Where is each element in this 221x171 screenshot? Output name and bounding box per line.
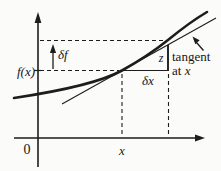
tangent-label-line1: tangent — [172, 49, 211, 64]
f-of-x-label: f(x) — [17, 64, 35, 79]
delta-f-label: δf — [58, 47, 70, 62]
delta-x-label: δx — [142, 73, 154, 88]
diagram-canvas: f(x) δf z δx tangent at x 0 x — [0, 0, 221, 171]
x-axis-arrowhead-icon — [195, 135, 205, 142]
tangent-label-line2: at x — [172, 63, 191, 78]
y-axis-arrowhead-icon — [35, 12, 42, 23]
x-value-label: x — [118, 143, 125, 158]
delta-f-arrowhead-icon — [50, 44, 56, 53]
z-label: z — [158, 51, 164, 65]
tangent-label-at-word: at — [172, 63, 185, 78]
origin-label: 0 — [24, 142, 31, 157]
tangent-pointer-arrowhead-icon — [193, 37, 200, 45]
math-diagram: f(x) δf z δx tangent at x 0 x — [0, 0, 221, 171]
tangent-label-at-var: x — [184, 63, 191, 78]
